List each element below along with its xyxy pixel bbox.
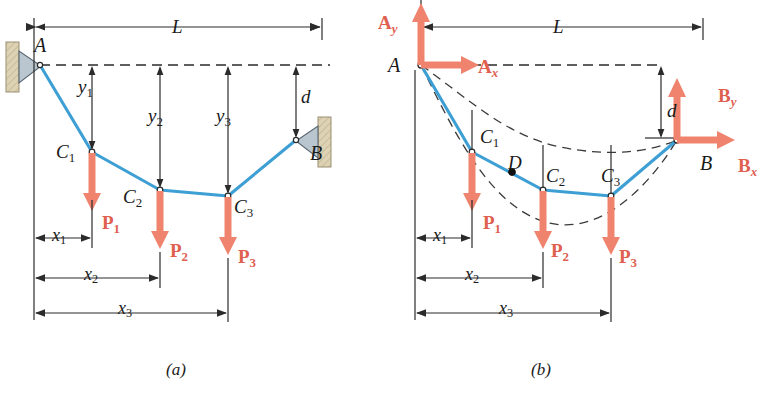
panel-b-group xyxy=(412,0,735,322)
load-arrow-P2-b xyxy=(534,191,552,249)
node-B-a xyxy=(293,137,298,142)
sag-dim-y3-a xyxy=(225,66,232,194)
point-label-B: B xyxy=(310,142,322,165)
force-label-P2: P2 xyxy=(551,240,569,265)
sag-label-y2: y2 xyxy=(148,105,163,130)
reaction-arrow-Ay xyxy=(412,3,430,65)
caption-a: (a) xyxy=(166,360,186,380)
force-label-P3: P3 xyxy=(238,246,256,271)
dist-label-x3: x3 xyxy=(499,298,513,321)
point-label-C3: C3 xyxy=(234,196,253,221)
caption-b: (b) xyxy=(531,360,551,380)
point-label-A: A xyxy=(34,34,46,57)
point-label-B: B xyxy=(700,152,712,175)
point-label-A: A xyxy=(388,54,400,77)
node-A-a xyxy=(37,62,42,67)
point-label-C1: C1 xyxy=(480,126,499,151)
drop-label-d: d xyxy=(667,100,677,122)
drop-dim-d-a xyxy=(293,66,300,138)
sag-label-y1: y1 xyxy=(78,76,93,101)
dist-label-x1: x1 xyxy=(52,225,66,248)
dist-label-x3: x3 xyxy=(118,298,132,321)
reaction-arrow-Bx xyxy=(677,131,735,149)
dist-label-x1: x1 xyxy=(433,225,447,248)
point-label-C2: C2 xyxy=(123,186,142,211)
span-label-L: L xyxy=(553,16,564,38)
reaction-label-Bx: Bx xyxy=(738,155,757,180)
force-label-P2: P2 xyxy=(170,240,188,265)
reaction-arrow-Ax xyxy=(421,56,479,74)
load-arrow-P3-b xyxy=(602,197,620,255)
span-label-L: L xyxy=(172,16,183,38)
reaction-label-By: By xyxy=(718,85,736,110)
panel-a-group xyxy=(6,18,331,322)
drop-label-d: d xyxy=(301,86,311,108)
dist-label-x2: x2 xyxy=(84,264,98,287)
figure-canvas xyxy=(0,0,761,396)
sag-label-y3: y3 xyxy=(216,105,231,130)
force-label-P3: P3 xyxy=(619,246,637,271)
point-label-C3: C3 xyxy=(601,165,620,190)
reaction-label-Ay: Ay xyxy=(378,12,397,37)
load-arrow-P2-a xyxy=(151,191,169,249)
force-label-P1: P1 xyxy=(102,212,120,237)
point-label-C2: C2 xyxy=(546,165,565,190)
point-label-C1: C1 xyxy=(56,141,75,166)
force-label-P1: P1 xyxy=(483,212,501,237)
reaction-label-Ax: Ax xyxy=(478,56,498,81)
alt-cable-lower-b xyxy=(421,65,677,225)
point-label-D: D xyxy=(508,152,522,174)
dist-label-x2: x2 xyxy=(465,264,479,287)
cable-loads-figure: Ly1y2y3dx1x2x3AC1C2C3BP1P2P3Ldx1x2x3AC1D… xyxy=(0,0,761,396)
